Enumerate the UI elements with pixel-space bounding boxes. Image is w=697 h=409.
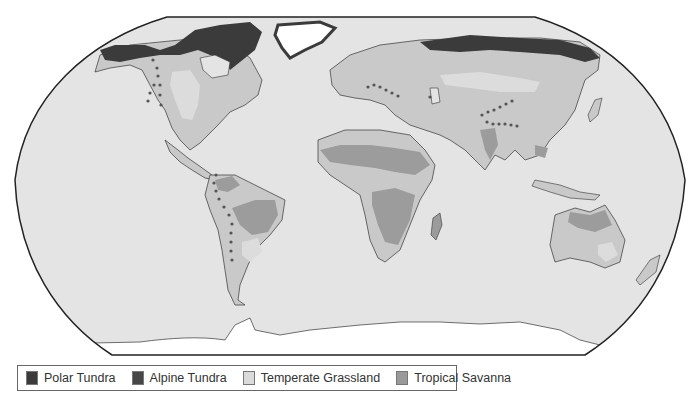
tropical-savanna-swatch bbox=[396, 371, 408, 385]
legend-item-polar-tundra: Polar Tundra bbox=[26, 371, 116, 385]
legend-label: Alpine Tundra bbox=[150, 371, 227, 385]
alpine-tundra-swatch bbox=[132, 371, 144, 385]
legend-item-temperate-grassland: Temperate Grassland bbox=[243, 371, 381, 385]
legend-item-tropical-savanna: Tropical Savanna bbox=[396, 371, 511, 385]
caspian-sea bbox=[430, 88, 440, 104]
legend-label: Tropical Savanna bbox=[414, 371, 511, 385]
world-biome-map bbox=[0, 0, 697, 360]
map-legend: Polar Tundra Alpine Tundra Temperate Gra… bbox=[17, 365, 457, 391]
temperate-grassland-swatch bbox=[243, 371, 255, 385]
legend-item-alpine-tundra: Alpine Tundra bbox=[132, 371, 227, 385]
polar-tundra-swatch bbox=[26, 371, 38, 385]
legend-label: Polar Tundra bbox=[44, 371, 116, 385]
legend-label: Temperate Grassland bbox=[261, 371, 381, 385]
